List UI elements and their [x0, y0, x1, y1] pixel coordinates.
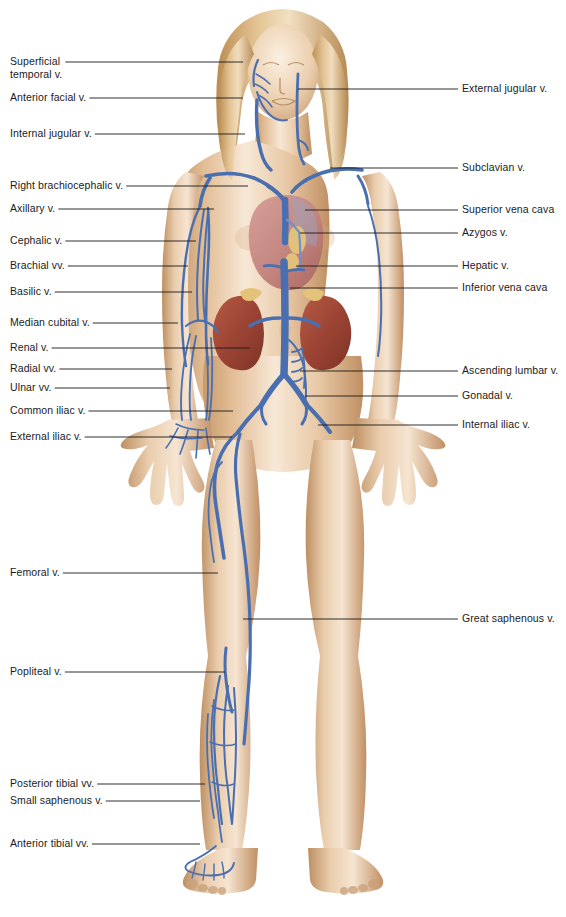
- label-ascending-lumbar-vein[interactable]: Ascending lumbar v.: [462, 364, 564, 377]
- label-internal-jugular-vein[interactable]: Internal jugular v.: [10, 127, 92, 140]
- label-hepatic-vein[interactable]: Hepatic v.: [462, 259, 564, 272]
- label-renal-vein[interactable]: Renal v.: [10, 341, 49, 354]
- label-subclavian-vein[interactable]: Subclavian v.: [462, 161, 564, 174]
- label-radial-veins[interactable]: Radial vv.: [10, 362, 56, 375]
- label-external-iliac-vein[interactable]: External iliac v.: [10, 430, 82, 443]
- label-gonadal-vein[interactable]: Gonadal v.: [462, 389, 564, 402]
- label-inferior-vena-cava[interactable]: Inferior vena cava: [462, 281, 564, 294]
- label-anterior-tibial-veins[interactable]: Anterior tibial vv.: [10, 837, 89, 850]
- label-femoral-vein[interactable]: Femoral v.: [10, 566, 60, 579]
- label-ulnar-veins[interactable]: Ulnar vv.: [10, 381, 52, 394]
- label-anterior-facial-vein[interactable]: Anterior facial v.: [10, 91, 86, 104]
- label-internal-iliac-vein[interactable]: Internal iliac v.: [462, 418, 564, 431]
- label-basilic-vein[interactable]: Basilic v.: [10, 285, 52, 298]
- venous-system-diagram: Superficial temporal v.Anterior facial v…: [0, 0, 566, 917]
- label-superficial-temporal-vein[interactable]: Superficial temporal v.: [10, 55, 62, 80]
- label-superior-vena-cava[interactable]: Superior vena cava: [462, 203, 564, 216]
- label-small-saphenous-vein[interactable]: Small saphenous v.: [10, 794, 103, 807]
- label-great-saphenous-vein[interactable]: Great saphenous v.: [462, 612, 564, 625]
- label-brachial-veins[interactable]: Brachial vv.: [10, 259, 65, 272]
- label-right-brachiocephalic-vein[interactable]: Right brachiocephalic v.: [10, 179, 123, 192]
- label-azygos-vein[interactable]: Azygos v.: [462, 226, 564, 239]
- label-cephalic-vein[interactable]: Cephalic v.: [10, 234, 62, 247]
- label-popliteal-vein[interactable]: Popliteal v.: [10, 665, 62, 678]
- label-external-jugular-vein[interactable]: External jugular v.: [462, 82, 564, 95]
- label-posterior-tibial-veins[interactable]: Posterior tibial vv.: [10, 777, 94, 790]
- label-axillary-vein[interactable]: Axillary v.: [10, 202, 55, 215]
- label-common-iliac-vein[interactable]: Common iliac v.: [10, 404, 85, 417]
- label-median-cubital-vein[interactable]: Median cubital v.: [10, 316, 90, 329]
